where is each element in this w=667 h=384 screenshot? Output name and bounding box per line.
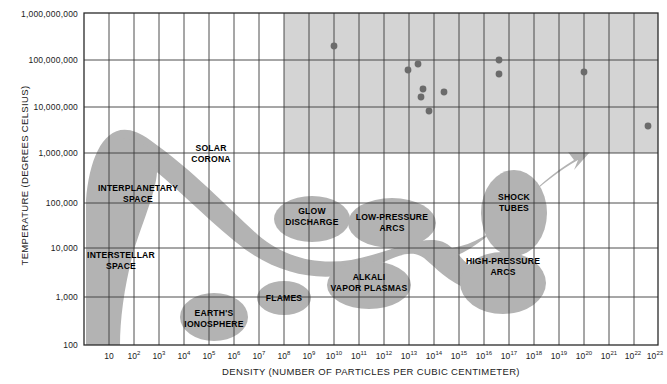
data-point	[441, 89, 448, 96]
data-point	[405, 67, 412, 74]
region-label-low-pressure-arcs: LOW-PRESSURE ARCS	[345, 212, 439, 233]
data-point	[331, 43, 338, 50]
y-tick-label: 1,000,000	[0, 148, 78, 158]
y-tick-label: 100	[0, 340, 78, 350]
y-tick-label: 1,000,000,000	[0, 9, 78, 19]
data-point	[496, 71, 503, 78]
region-label-shock-tubes: SHOCK TUBES	[484, 192, 544, 213]
data-point	[426, 108, 433, 115]
y-tick-label: 100,000,000	[0, 55, 78, 65]
data-point	[420, 86, 427, 93]
y-tick-label: 1,000	[0, 292, 78, 302]
data-point	[418, 94, 425, 101]
y-tick-label: 10,000,000	[0, 102, 78, 112]
data-point	[581, 69, 588, 76]
shaded-high-temperature-region	[284, 13, 658, 153]
y-tick-label: 10,000	[0, 243, 78, 253]
region-label-glow-discharge: GLOW DISCHARGE	[276, 206, 348, 227]
region-label-interstellar-space: INTERSTELLAR SPACE	[78, 250, 164, 271]
plasma-regime-chart: 1,000,000,000 100,000,000 10,000,000 1,0…	[0, 0, 667, 384]
region-label-solar-corona: SOLAR CORONA	[172, 143, 250, 164]
x-axis-title: DENSITY (NUMBER OF PARTICLES PER CUBIC C…	[84, 366, 658, 377]
blob-shock-tubes	[481, 170, 547, 256]
data-point	[496, 57, 503, 64]
y-tick-label: 100,000	[0, 198, 78, 208]
data-point	[645, 123, 652, 130]
region-label-high-pressure-arcs: HIGH-PRESSURE ARCS	[456, 256, 550, 277]
region-label-earths-ionosphere: EARTH'S IONOSPHERE	[172, 308, 256, 329]
region-label-alkali-vapor-plasmas: ALKALI VAPOR PLASMAS	[318, 272, 420, 293]
region-label-flames: FLAMES	[257, 293, 311, 304]
y-axis-title: TEMPERATURE (DEGREES CELSIUS)	[19, 66, 30, 286]
x-tick-label: 1023	[638, 350, 667, 361]
data-point	[415, 61, 422, 68]
region-label-interplanetary-space: INTERPLANETARY SPACE	[88, 183, 188, 204]
